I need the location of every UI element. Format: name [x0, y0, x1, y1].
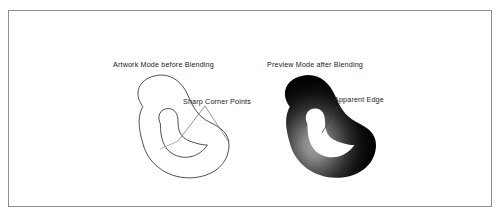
illustration-canvas	[0, 0, 501, 216]
caption-preview-mode: Preview Mode after Blending	[267, 61, 363, 68]
preview-blended-silhouette	[285, 75, 376, 178]
artwork-mode-shape-group	[138, 75, 229, 178]
sharp-corner-leader-left	[178, 106, 205, 141]
preview-mode-shape-group	[285, 75, 376, 178]
sharp-corner-leader-right	[205, 106, 228, 141]
callout-label-apparent-edge: Apparent Edge	[334, 96, 384, 103]
sharp-corner-tick-left	[160, 141, 178, 149]
figure-root: Artwork Mode before Blending Preview Mod…	[0, 0, 501, 216]
artwork-outer-contour	[138, 75, 229, 178]
callout-label-sharp-corner-points: Sharp Corner Points	[183, 98, 251, 105]
caption-artwork-mode: Artwork Mode before Blending	[113, 61, 214, 68]
